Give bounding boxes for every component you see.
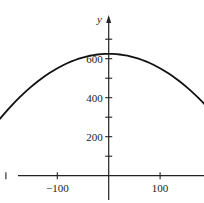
x-tick-label: −100 xyxy=(46,182,69,194)
y-tick-labels: 200400600 xyxy=(86,53,103,143)
x-tick-labels: −300−100100300 xyxy=(0,182,204,194)
parabola-chart: y −300−100100300 200400600 xyxy=(0,0,204,203)
y-tick-label: 400 xyxy=(86,92,103,104)
x-tick-label: 100 xyxy=(152,182,169,194)
y-tick-label: 200 xyxy=(86,131,103,143)
parabola-curve xyxy=(0,54,204,176)
y-axis-label: y xyxy=(96,13,102,25)
y-axis-arrow-icon xyxy=(106,15,111,23)
